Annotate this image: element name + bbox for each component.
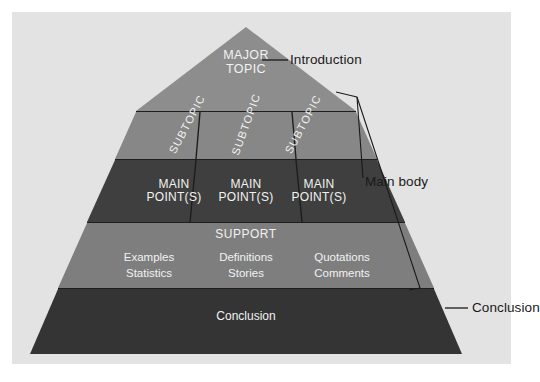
tier-conclusion-label: Conclusion <box>196 310 296 323</box>
callout-label-conclusion: Conclusion <box>472 300 540 315</box>
main-point-3-line1: MAIN <box>276 178 362 191</box>
support-2-line1: Definitions <box>198 250 294 266</box>
support-1-line1: Examples <box>101 250 197 266</box>
support-column-1: Examples Statistics <box>101 250 197 281</box>
tier-introduction-line2: TOPIC <box>196 62 296 76</box>
callout-label-main-body: Main body <box>365 174 428 189</box>
support-heading: SUPPORT <box>196 228 296 241</box>
tier-introduction-label: MAJOR TOPIC <box>196 48 296 76</box>
callout-label-introduction: Introduction <box>290 52 362 67</box>
support-1-line2: Statistics <box>101 266 197 282</box>
support-column-3: Quotations Comments <box>294 250 390 281</box>
tier-introduction-line1: MAJOR <box>196 48 296 62</box>
main-point-3-line2: POINT(S) <box>276 191 362 204</box>
main-point-label-3: MAIN POINT(S) <box>276 178 362 205</box>
support-3-line1: Quotations <box>294 250 390 266</box>
support-column-2: Definitions Stories <box>198 250 294 281</box>
support-3-line2: Comments <box>294 266 390 282</box>
support-2-line2: Stories <box>198 266 294 282</box>
